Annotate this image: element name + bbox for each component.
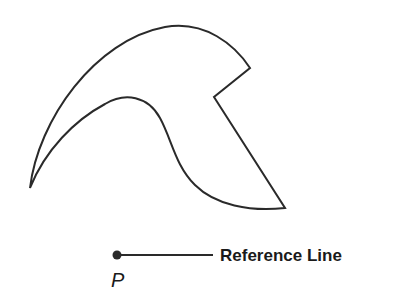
point-p-marker	[113, 251, 122, 260]
point-p-label: P	[111, 269, 125, 291]
diagram-canvas: Reference Line P	[0, 0, 416, 301]
reference-line-label: Reference Line	[220, 246, 342, 265]
curved-region-shape	[30, 26, 285, 209]
